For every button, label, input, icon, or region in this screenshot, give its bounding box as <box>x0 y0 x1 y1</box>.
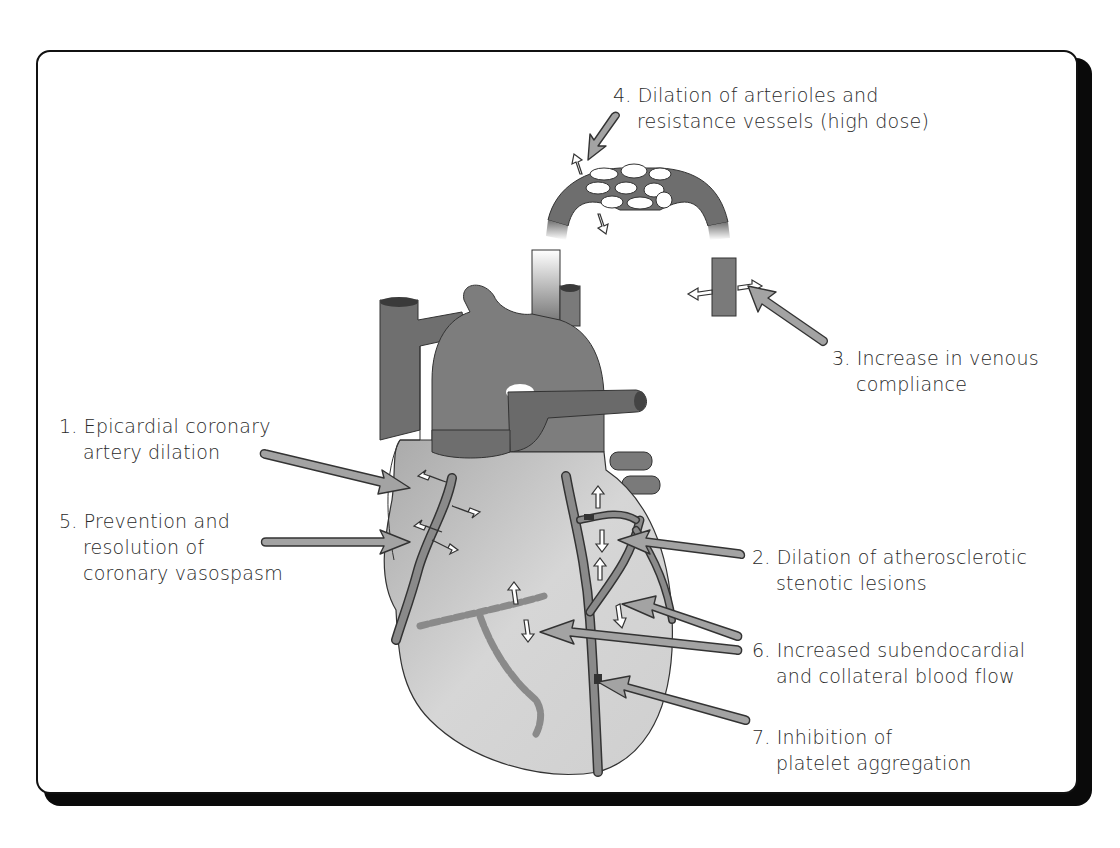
stenosis-mark <box>584 514 594 520</box>
vein-segment <box>712 258 736 316</box>
label-5: 5. Prevention and resolution of coronary… <box>59 508 283 586</box>
label-3: 3. Increase in venous compliance <box>832 345 1039 397</box>
label-4: 4. Dilation of arterioles and resistance… <box>613 82 929 134</box>
label-1: 1. Epicardial coronary artery dilation <box>59 413 271 465</box>
label-6: 6. Increased subendocardial and collater… <box>752 637 1025 689</box>
label-2: 2. Dilation of atherosclerotic stenotic … <box>752 544 1027 596</box>
label-7: 7. Inhibition of platelet aggregation <box>752 724 972 776</box>
arteriole-network <box>546 164 730 240</box>
